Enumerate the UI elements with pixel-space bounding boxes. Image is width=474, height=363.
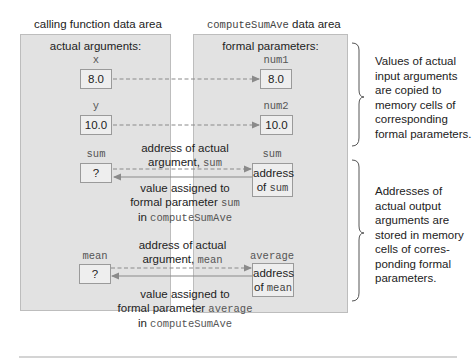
brace-input bbox=[352, 43, 364, 146]
sum-address-label: address of actual argument, sum bbox=[130, 141, 240, 170]
sum-value-label: value assigned to formal parameter sum i… bbox=[120, 181, 250, 225]
output-arguments-note: Addresses of actual output arguments are… bbox=[375, 184, 464, 286]
mean-address-label: address of actual argument, mean bbox=[125, 238, 240, 267]
input-arguments-note: Values of actual input arguments are cop… bbox=[375, 54, 472, 141]
brace-output bbox=[352, 160, 364, 301]
mean-value-label: value assigned to formal parameter avera… bbox=[110, 287, 260, 331]
